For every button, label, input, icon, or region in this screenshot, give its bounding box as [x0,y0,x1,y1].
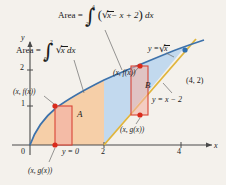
radical-top: √x [102,11,111,20]
leader-fx-left [44,96,54,104]
region-a-label: A [77,110,83,119]
region-b-label: B [145,81,151,90]
x-axis-label: x [214,142,218,150]
origin-label: 0 [21,148,25,156]
leader-integral-left [74,60,84,93]
point-dot-fx-left [52,103,57,108]
integral-upper-limit-top: 4 [92,5,95,11]
formula-left-lead: Area = [16,45,41,55]
leader-gx-left [49,148,55,162]
integral-symbol-left: ∫ 2 0 [43,43,53,59]
x-tick-label-2: 2 [101,148,105,156]
intersection-point-label: (4, 2) [186,77,203,85]
y-axis-label: y [21,34,25,42]
point-dot-fx-right [137,63,142,68]
formula-area-region-b: Area = ∫ 4 2 (√x− x + 2) dx [58,8,154,24]
curve-label-sqrt-radical: √x [159,45,168,53]
point-dot-gx-left [52,142,57,147]
differential-left: dx [67,45,76,55]
leader-line-label [163,83,172,93]
point-label-fx-right: (x, f(x)) [113,69,135,77]
formula-top-middle: − x + 2 [111,10,138,20]
baseline-label: y = 0 [62,148,79,156]
y-tick-label-1: 1 [21,100,25,108]
integral-lower-limit-left: 0 [44,57,47,63]
point-dot-gx-right [137,112,142,117]
differential-top: dx [145,10,154,20]
point-label-gx-left: (x, g(x)) [28,167,52,175]
formula-top-lead: Area = [58,10,83,20]
close-paren-top: ) [138,7,142,22]
point-label-gx-right: (x, g(x)) [120,126,144,134]
leader-integral-top [105,30,122,70]
integral-symbol-top: ∫ 4 2 [85,8,95,24]
leader-gx-right [136,118,140,124]
y-tick-label-2: 2 [20,64,24,72]
curve-label-sqrt-eq: y = [148,44,159,53]
x-axis-arrow [206,142,212,147]
integral-upper-limit-left: 2 [50,40,53,46]
curve-label-line: y = x − 2 [152,96,182,104]
formula-area-region-a: Area = ∫ 2 0 √x dx [16,43,75,59]
radical-left: √x [56,46,65,55]
x-tick-label-4: 4 [177,148,181,156]
curve-label-sqrt: y =√x [148,45,168,53]
representative-rect-a [55,106,72,145]
integral-lower-limit-top: 2 [86,22,89,28]
point-dot-intersection [182,47,187,52]
point-label-fx-left: (x, f(x)) [13,88,35,96]
